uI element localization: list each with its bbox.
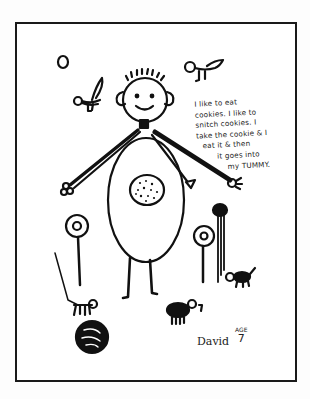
bird-left: [74, 78, 102, 111]
ball: [76, 321, 108, 353]
age-value: 7: [235, 333, 247, 344]
flower-left: [66, 215, 88, 285]
age-label: AGE 7: [235, 326, 247, 344]
flower-right: [194, 226, 214, 282]
left-arm: [70, 130, 138, 185]
small-figure-right: [213, 204, 227, 282]
bird-right: [185, 60, 223, 81]
legs: [123, 258, 157, 298]
signature: David: [197, 335, 229, 348]
figure-head: [117, 69, 174, 122]
floating-circle: [58, 56, 68, 68]
child-drawing: [0, 0, 310, 399]
bug-middle: [167, 300, 202, 324]
cat-left: [74, 300, 97, 315]
bug-right: [226, 268, 255, 287]
cookie-in-tummy: [130, 175, 164, 205]
speech-caption: I like to eat cookies. I like to snitch …: [194, 94, 298, 173]
